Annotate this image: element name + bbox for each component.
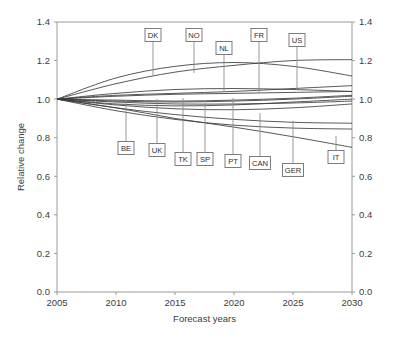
y-tick-label-left: 1.4	[37, 16, 50, 27]
y-tick-label-left: 0.4	[37, 209, 50, 220]
annotation-label-us: US	[292, 36, 303, 45]
annotation-label-dk: DK	[148, 31, 159, 40]
annotation-label-sp: SP	[200, 155, 210, 164]
y-tick-label-left: 0.8	[37, 132, 50, 143]
annotation-label-no: NO	[188, 31, 199, 40]
y-tick-label-right: 1.0	[359, 94, 372, 105]
annotation-label-pt: PT	[228, 157, 238, 166]
annotation-label-can: CAN	[252, 159, 268, 168]
plot-background	[0, 0, 402, 338]
y-tick-label-left: 0.6	[37, 171, 50, 182]
annotation-label-fr: FR	[254, 31, 265, 40]
x-tick-label: 2020	[223, 297, 244, 308]
chart-container: 0.00.00.20.20.40.40.60.60.80.81.01.01.21…	[0, 0, 402, 338]
x-tick-label: 2015	[164, 297, 185, 308]
y-axis-title: Relative change	[15, 123, 26, 191]
annotation-label-ger: GER	[285, 166, 302, 175]
y-tick-label-right: 0.4	[359, 209, 372, 220]
y-tick-label-left: 1.2	[37, 55, 50, 66]
x-tick-label: 2005	[46, 297, 67, 308]
annotation-label-be: BE	[121, 144, 131, 153]
y-tick-label-left: 1.0	[37, 94, 50, 105]
annotation-label-tk: TK	[178, 155, 188, 164]
y-tick-label-right: 0.6	[359, 171, 372, 182]
y-tick-label-left: 0.0	[37, 286, 50, 297]
annotation-label-it: IT	[333, 153, 340, 162]
relative-change-line-chart: 0.00.00.20.20.40.40.60.60.80.81.01.01.21…	[0, 0, 402, 338]
y-tick-label-right: 0.0	[359, 286, 372, 297]
annotation-label-nl: NL	[219, 44, 229, 53]
x-tick-label: 2030	[341, 297, 362, 308]
y-tick-label-right: 0.2	[359, 248, 372, 259]
x-tick-label: 2010	[105, 297, 126, 308]
y-tick-label-left: 0.2	[37, 248, 50, 259]
x-tick-label: 2025	[282, 297, 303, 308]
x-axis-title: Forecast years	[173, 313, 236, 324]
y-tick-label-right: 0.8	[359, 132, 372, 143]
y-tick-label-right: 1.4	[359, 16, 372, 27]
y-tick-label-right: 1.2	[359, 55, 372, 66]
annotation-label-uk: UK	[152, 146, 163, 155]
